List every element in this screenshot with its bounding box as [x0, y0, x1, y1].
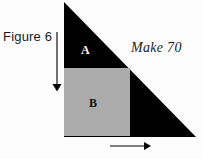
region-label-b: B [89, 96, 97, 111]
vertical-height-arrow [53, 32, 62, 92]
region-label-a: A [81, 43, 90, 58]
figure-container: Figure 6 Make 70 A B [0, 0, 203, 159]
arrowhead-down-icon [53, 84, 62, 92]
figure-graphic [0, 0, 203, 159]
figure-caption: Figure 6 [3, 29, 52, 44]
arrowhead-right-icon [144, 142, 151, 150]
make-annotation: Make 70 [131, 40, 182, 56]
horizontal-width-arrow [110, 142, 151, 150]
